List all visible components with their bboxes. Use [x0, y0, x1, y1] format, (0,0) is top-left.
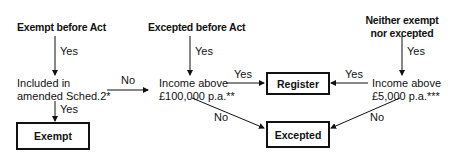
outcome-excepted-box: Excepted: [266, 121, 330, 148]
yes-label-col1: Yes: [60, 45, 78, 58]
no-label-col3: No: [370, 111, 384, 124]
yes-label-col2: Yes: [195, 45, 213, 58]
heading-exempt-before-act: Exempt before Act: [17, 21, 106, 34]
decision-col3-line2: £5,000 p.a.***: [372, 90, 440, 103]
heading-excepted-before-act: Excepted before Act: [148, 21, 245, 34]
decision-col3-line1: Income above: [372, 77, 441, 90]
decision-col1-line1: Included in: [17, 77, 70, 90]
decision-col2-line1: Income above: [159, 77, 228, 90]
outcome-register-box: Register: [266, 72, 330, 95]
yes-label-col3: Yes: [407, 45, 425, 58]
yes-label-col3-register: Yes: [345, 68, 363, 81]
outcome-exempt-box: Exempt: [16, 122, 90, 150]
heading-neither-line1: Neither exempt: [362, 14, 442, 27]
decision-col1-line2: amended Sched.2*: [17, 90, 111, 103]
no-label-col1: No: [121, 74, 135, 87]
heading-neither-line2: nor excepted: [362, 27, 442, 40]
yes-label-col1-result: Yes: [60, 103, 78, 116]
decision-col2-line2: £100,000 p.a.**: [159, 90, 235, 103]
no-label-col2: No: [214, 111, 228, 124]
yes-label-col2-register: Yes: [234, 68, 252, 81]
